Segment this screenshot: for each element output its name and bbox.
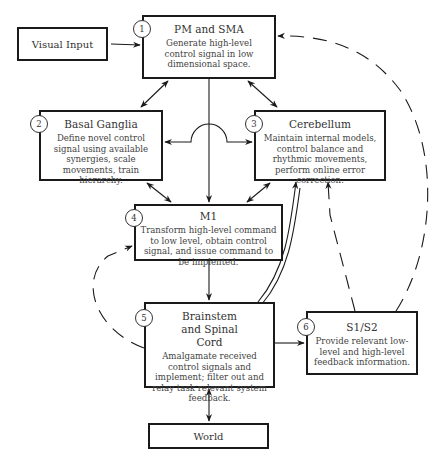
node-label: Visual Input: [32, 39, 93, 50]
edge-cb-m1: [247, 183, 270, 202]
node-basal-ganglia: Basal Ganglia Define novel control signa…: [39, 110, 163, 181]
node-number-badge: 3: [245, 115, 263, 133]
node-description: Transform high-level command to low leve…: [136, 225, 281, 267]
node-description: Amalgamate received control signals and …: [146, 351, 273, 404]
edge-pm-bg: [141, 81, 168, 107]
node-title: Cerebellum: [256, 118, 384, 131]
node-number-badge: 5: [135, 309, 153, 327]
node-number-badge: 2: [30, 115, 48, 133]
node-label: World: [194, 431, 224, 442]
node-visual-input: Visual Input: [17, 27, 108, 61]
node-pm-sma: PM and SMA Generate high-level control s…: [142, 15, 276, 79]
edge-s1s2-cb-dashed: [328, 182, 355, 311]
node-brainstem-spinal-cord: Brainstem and Spinal Cord Amalgamate rec…: [144, 302, 275, 388]
node-s1-s2: S1/S2 Provide relevant low-level and hig…: [306, 311, 418, 375]
node-number-badge: 1: [133, 20, 151, 38]
node-description: Generate high-level control signal in lo…: [144, 38, 274, 70]
node-title: PM and SMA: [144, 23, 274, 36]
node-world: World: [148, 423, 269, 449]
node-title: Brainstem and Spinal Cord: [146, 310, 273, 349]
node-number-badge: 4: [125, 209, 143, 227]
edge-visual-to-pm: [111, 44, 140, 45]
node-title: S1/S2: [308, 321, 416, 334]
edge-pm-cb: [248, 81, 277, 107]
node-title: Basal Ganglia: [41, 118, 161, 131]
edge-bg-m1: [147, 183, 171, 202]
node-cerebellum: Cerebellum Maintain internal models, con…: [254, 110, 386, 181]
node-title: M1: [136, 210, 281, 223]
node-m1: M1 Transform high-level command to low l…: [134, 204, 283, 261]
node-number-badge: 6: [297, 318, 315, 336]
node-description: Maintain internal models, control balanc…: [256, 133, 384, 186]
node-description: Provide relevant low-level and high-leve…: [308, 336, 416, 368]
node-description: Define novel control signal using availa…: [41, 133, 161, 186]
